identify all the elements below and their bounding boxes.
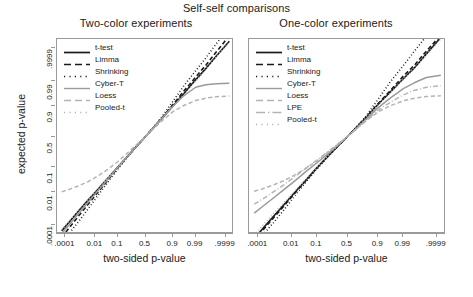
page-title: Self-self comparisons bbox=[0, 2, 473, 14]
legend-item-label: Limma bbox=[95, 54, 119, 66]
x-axis-line bbox=[56, 233, 233, 234]
series-canvas bbox=[57, 39, 233, 233]
series-line-lpe bbox=[254, 86, 441, 205]
legend-item-label: Pooled-t bbox=[287, 114, 317, 126]
legend-item-label: Shrinking bbox=[287, 66, 320, 78]
legend-key-swatch bbox=[64, 71, 90, 73]
legend-key-swatch bbox=[256, 119, 282, 121]
y-axis-title: expected p-value bbox=[15, 74, 27, 194]
x-axis-line bbox=[248, 233, 445, 234]
legend-key-swatch bbox=[64, 83, 90, 85]
y-tick-label: 0.5 bbox=[44, 136, 56, 160]
series-line-loess bbox=[254, 96, 441, 192]
legend-item-label: Shrinking bbox=[95, 66, 128, 78]
y-tick-label: .9999 bbox=[44, 47, 56, 71]
legend-item-label: Cyber-T bbox=[287, 78, 316, 90]
series-canvas bbox=[249, 39, 445, 233]
legend-item-label: Loess bbox=[287, 90, 308, 102]
y-tick-label: .0001 bbox=[44, 224, 56, 248]
y-tick-label: 0.01 bbox=[44, 191, 56, 215]
legend-item-label: Pooled-t bbox=[95, 102, 125, 114]
y-tick-label: 0.1 bbox=[44, 166, 56, 190]
legend-key-swatch bbox=[256, 71, 282, 73]
panel-title-two-color: Two-color experiments bbox=[36, 17, 236, 29]
legend-key-swatch bbox=[256, 107, 282, 109]
legend-key-swatch bbox=[64, 95, 90, 97]
legend-item-label: Loess bbox=[95, 90, 116, 102]
series-line-cyber-t bbox=[62, 83, 230, 233]
legend-key-swatch bbox=[64, 59, 90, 61]
y-tick-label: 0.99 bbox=[44, 80, 56, 104]
series-line-cyber-t bbox=[254, 75, 441, 213]
legend-item-label: t-test bbox=[95, 42, 113, 54]
x-axis-title-two-color: two-sided p-value bbox=[36, 252, 253, 264]
legend-key-swatch bbox=[256, 47, 282, 49]
panel-title-one-color: One-color experiments bbox=[236, 17, 436, 29]
legend-key-swatch bbox=[64, 107, 90, 109]
legend-item-label: Cyber-T bbox=[95, 78, 124, 90]
plot-panel-two-color bbox=[56, 38, 233, 233]
figure-root: Self-self comparisons Two-color experime… bbox=[0, 0, 473, 297]
x-axis-title-one-color: two-sided p-value bbox=[228, 252, 465, 264]
x-tick-label: .9999 bbox=[414, 239, 458, 248]
legend-key-swatch bbox=[64, 47, 90, 49]
legend-item-label: t-test bbox=[287, 42, 305, 54]
legend-key-swatch bbox=[256, 83, 282, 85]
legend-key-swatch bbox=[256, 59, 282, 61]
legend-key-swatch bbox=[256, 95, 282, 97]
y-tick-label: 0.9 bbox=[44, 105, 56, 129]
plot-panel-one-color bbox=[248, 38, 445, 233]
legend-item-label: LPE bbox=[287, 102, 302, 114]
legend-item-label: Limma bbox=[287, 54, 311, 66]
